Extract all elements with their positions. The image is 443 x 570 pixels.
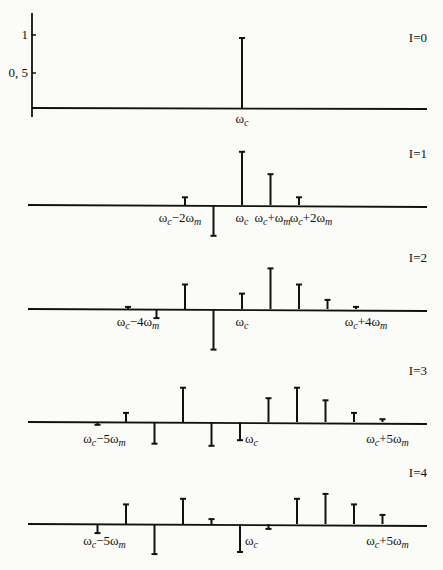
frequency-label: ωc​ — [235, 210, 249, 227]
frequency-label: ωc​+5ωm​ — [366, 533, 409, 550]
frequency-label: ωc​+2ωm​ — [290, 210, 333, 227]
frequency-label: ωc​ — [235, 111, 249, 128]
panel-label: I=1 — [409, 146, 427, 161]
axes-group — [28, 13, 427, 526]
baseline-0 — [32, 108, 427, 109]
frequency-label: ωc​ — [235, 314, 249, 331]
frequency-label: ωc​+ωm​ — [254, 210, 290, 227]
frequency-label: ωc​−4ωm​ — [117, 314, 160, 331]
baseline-1 — [28, 205, 427, 207]
frequency-label: ωc​−5ωm​ — [83, 431, 126, 448]
panel-label: I=2 — [409, 250, 427, 265]
bessel-spectrum-chart: I=0ωc​I=1ωc​−2ωm​ωc​ωc​+ωm​ωc​+2ωm​I=2ωc… — [0, 0, 443, 570]
panel-label: I=3 — [409, 363, 427, 378]
baseline-4 — [28, 524, 427, 526]
panel-label: I=4 — [409, 465, 428, 480]
labels-group: I=0ωc​I=1ωc​−2ωm​ωc​ωc​+ωm​ωc​+2ωm​I=2ωc… — [9, 27, 428, 550]
frequency-label: ωc​ — [245, 533, 259, 550]
baseline-2 — [28, 309, 427, 311]
frequency-label: ωc​−5ωm​ — [83, 533, 126, 550]
y-tick-label: 0, 5 — [9, 65, 29, 80]
frequency-label: ωc​+5ωm​ — [366, 431, 409, 448]
frequency-label: ωc​ — [245, 431, 259, 448]
panel-label: I=0 — [409, 30, 427, 45]
frequency-label: ωc​+4ωm​ — [345, 314, 388, 331]
baseline-3 — [28, 422, 427, 424]
frequency-label: ωc​−2ωm​ — [159, 210, 202, 227]
y-tick-label: 1 — [22, 27, 29, 42]
